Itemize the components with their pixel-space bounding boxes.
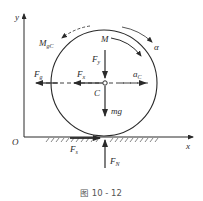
angular-accel-label: α [154,42,159,52]
figure-caption: 图 10 - 12 [80,188,122,198]
x-axis-label: x [185,141,190,151]
ground-hatching [46,138,158,142]
center-point [103,81,107,85]
accel-label: aC [133,69,143,80]
free-body-diagram: y O x MgC M α Fg Fx [0,0,203,201]
normal-force-label: FN [109,156,121,167]
force-x-label: Fx [76,69,86,80]
force-y-label: Fy [91,54,101,65]
center-label: C [94,88,101,98]
weight-label: mg [111,106,122,116]
inertial-force-label: Fg [33,69,43,80]
inertial-moment-label: MgC [38,38,55,49]
applied-moment-label: M [100,34,109,44]
friction-label: Fs [69,144,79,155]
origin-label: O [12,137,19,147]
inertial-moment-arc [62,26,90,38]
y-axis-label: y [14,12,19,22]
